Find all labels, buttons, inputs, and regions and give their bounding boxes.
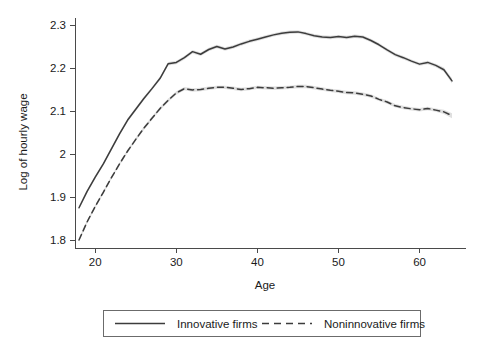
x-axis-title: Age xyxy=(255,279,275,291)
y-tick-label: 2 xyxy=(60,148,66,160)
y-tick-labels: 1.81.922.12.22.3 xyxy=(50,19,66,246)
legend-label-noninnovative-firms: Noninnovative firms xyxy=(324,318,425,330)
y-tick-label: 2.1 xyxy=(50,105,66,117)
plot-bands xyxy=(79,30,452,242)
y-tick-label: 1.9 xyxy=(50,191,66,203)
x-tick-label: 40 xyxy=(251,256,264,268)
legend-entry-innovative-firms[interactable]: Innovative firms xyxy=(115,318,258,330)
y-tick-label: 2.2 xyxy=(50,62,66,74)
line-chart-canvas: 2030405060 Age 1.81.922.12.22.3 Log of h… xyxy=(0,0,477,352)
y-tick-label: 2.3 xyxy=(50,19,66,31)
legend-entry-noninnovative-firms[interactable]: Noninnovative firms xyxy=(262,318,425,330)
chart-figure: 2030405060 Age 1.81.922.12.22.3 Log of h… xyxy=(0,0,477,352)
series-line-innovative-firms xyxy=(79,32,452,208)
legend-label-innovative-firms: Innovative firms xyxy=(177,318,258,330)
x-axis: 2030405060 Age xyxy=(75,248,466,291)
x-tick-labels: 2030405060 xyxy=(89,256,426,268)
x-tick-marks xyxy=(95,248,419,253)
x-tick-label: 20 xyxy=(89,256,102,268)
x-tick-label: 60 xyxy=(413,256,426,268)
y-tick-marks xyxy=(70,25,75,240)
x-tick-label: 30 xyxy=(170,256,183,268)
x-tick-label: 50 xyxy=(332,256,345,268)
y-tick-label: 1.8 xyxy=(50,234,66,246)
y-axis-title: Log of hourly wage xyxy=(17,93,29,190)
plot-lines xyxy=(79,32,452,240)
confidence-band-noninnovative-firms xyxy=(79,85,452,242)
confidence-band-innovative-firms xyxy=(79,30,452,209)
chart-legend: Innovative firms Noninnovative firms xyxy=(104,311,426,337)
y-axis: 1.81.922.12.22.3 Log of hourly wage xyxy=(17,18,75,248)
